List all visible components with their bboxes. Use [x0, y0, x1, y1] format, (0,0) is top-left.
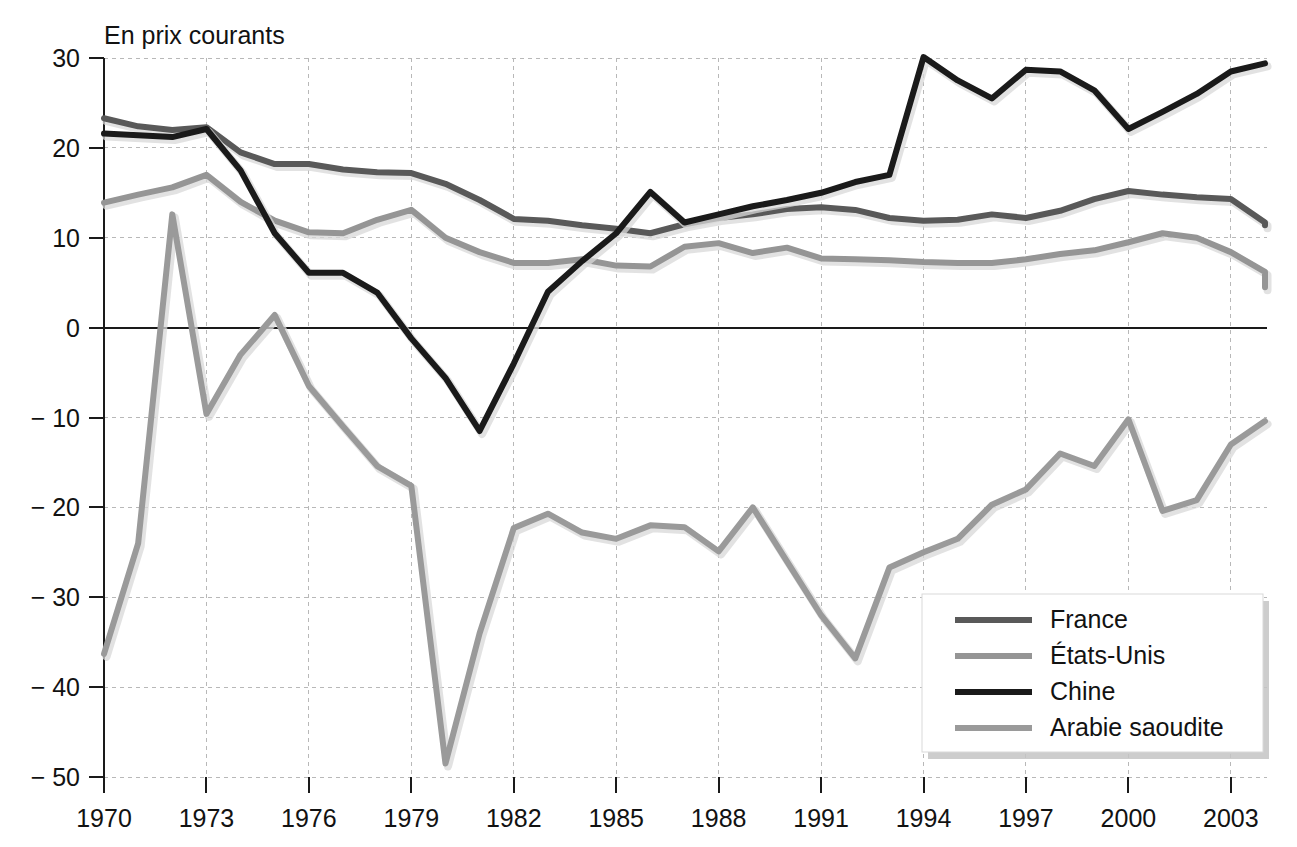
- x-axis-labels: 1970197319761979198219851988199119941997…: [76, 804, 1258, 832]
- x-axis-tick-label: 1973: [179, 804, 235, 832]
- y-axis-tick-label: 0: [66, 314, 80, 342]
- series-line-france: [104, 118, 1265, 233]
- x-axis-tick-label: 1985: [588, 804, 644, 832]
- y-axis-tick-label: 30: [52, 44, 80, 72]
- chart-title: En prix courants: [104, 21, 285, 49]
- x-axis-tick-label: 1976: [281, 804, 337, 832]
- x-axis-tick-label: 1988: [691, 804, 747, 832]
- chart-container: 3020100− 10− 20− 30− 40− 50 197019731976…: [0, 0, 1297, 847]
- y-axis-labels: 3020100− 10− 20− 30− 40− 50: [31, 44, 80, 791]
- y-axis-tick-label: − 50: [31, 763, 80, 791]
- series-line-shadow--tats-unis: [107, 178, 1268, 290]
- x-axis-tick-label: 1994: [896, 804, 952, 832]
- legend-label-chine: Chine: [1050, 677, 1115, 705]
- x-axis-tick-label: 1970: [76, 804, 132, 832]
- y-axis-tick-label: 10: [52, 224, 80, 252]
- legend-label--tats-unis: États-Unis: [1050, 641, 1165, 669]
- x-axis-tick-label: 1982: [486, 804, 542, 832]
- x-axis-tick-label: 1997: [998, 804, 1054, 832]
- chart-legend: FranceÉtats-UnisChineArabie saoudite: [922, 594, 1269, 759]
- x-axis-tick-label: 2003: [1203, 804, 1259, 832]
- x-axis-tick-label: 2000: [1101, 804, 1157, 832]
- y-axis-tick-label: − 30: [31, 583, 80, 611]
- y-axis-tick-label: − 10: [31, 404, 80, 432]
- x-axis-tick-label: 1991: [793, 804, 849, 832]
- line-chart: 3020100− 10− 20− 30− 40− 50 197019731976…: [0, 0, 1297, 847]
- y-axis-tick-label: − 40: [31, 673, 80, 701]
- y-axis-tick-label: 20: [52, 134, 80, 162]
- x-axis-tick-label: 1979: [384, 804, 440, 832]
- legend-label-arabie-saoudite: Arabie saoudite: [1050, 713, 1224, 741]
- y-axis-tick-label: − 20: [31, 493, 80, 521]
- legend-label-france: France: [1050, 605, 1128, 633]
